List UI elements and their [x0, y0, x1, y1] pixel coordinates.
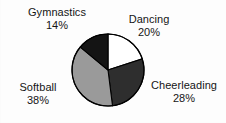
slice-label-cheerleading-name: Cheerleading	[151, 79, 217, 91]
slice-label-dancing-name: Dancing	[129, 13, 170, 25]
slice-label-dancing: Dancing 20%	[118, 13, 180, 38]
slice-label-cheerleading-percent: 28%	[144, 92, 224, 105]
slice-label-softball-percent: 38%	[9, 94, 67, 107]
slice-label-softball: Softball 38%	[9, 81, 67, 106]
slice-label-dancing-percent: 20%	[118, 26, 180, 39]
pie-chart-figure: Gymnastics 14% Dancing 20% Cheerleading …	[0, 0, 226, 123]
pie-chart-graphic	[72, 34, 144, 106]
slice-label-gymnastics-percent: 14%	[17, 19, 97, 32]
slice-label-gymnastics-name: Gymnastics	[28, 6, 86, 18]
slice-label-cheerleading: Cheerleading 28%	[144, 79, 224, 104]
slice-label-gymnastics: Gymnastics 14%	[17, 6, 97, 31]
slice-label-softball-name: Softball	[19, 81, 56, 93]
